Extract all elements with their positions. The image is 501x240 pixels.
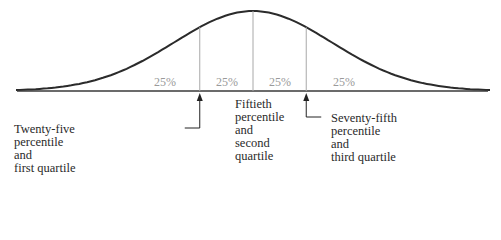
third-quartile-label: Seventy-fifth percentile and third quart…: [331, 112, 397, 164]
segment-label-2: 25%: [216, 75, 238, 89]
segment-label-3: 25%: [269, 75, 291, 89]
first-quartile-leader-line: [185, 100, 200, 128]
first-quartile-label: Twenty-five percentile and first quartil…: [14, 123, 75, 175]
median-label: Fiftieth percentile and second quartile: [235, 98, 284, 163]
third-quartile-arrowhead-icon: [303, 93, 309, 101]
segment-label-1: 25%: [154, 75, 176, 89]
first-quartile-arrowhead-icon: [197, 93, 203, 101]
first-quartile-label-line-4: first quartile: [14, 162, 75, 175]
third-quartile-label-line-4: third quartile: [331, 151, 397, 164]
segment-label-4: 25%: [333, 75, 355, 89]
median-label-line-5: quartile: [235, 150, 284, 163]
third-quartile-leader-line: [306, 100, 321, 117]
